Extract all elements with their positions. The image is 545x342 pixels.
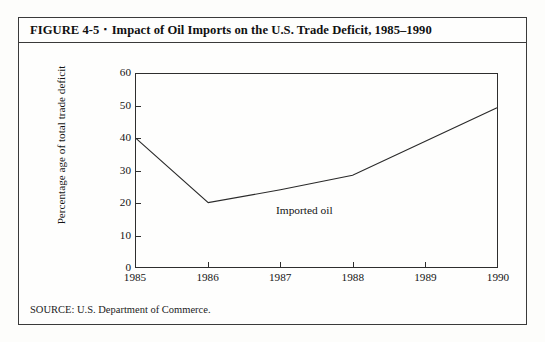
x-tick-mark [353, 262, 354, 268]
y-tick-label: 50 [105, 100, 131, 111]
x-tick-marks [135, 262, 498, 269]
figure-number-label: FIGURE 4-5 [30, 23, 99, 37]
y-tick-labels: 60 50 40 30 20 10 0 [103, 73, 131, 268]
x-tick-mark [280, 262, 281, 268]
figure-root: FIGURE 4-5▪Impact of Oil Imports on the … [0, 0, 545, 342]
y-tick-label: 40 [105, 132, 131, 143]
y-tick-label: 30 [105, 165, 131, 176]
source-note: SOURCE: U.S. Department of Commerce. [30, 304, 211, 315]
square-bullet-icon: ▪ [103, 25, 106, 34]
series-annotation-imported-oil: Imported oil [276, 204, 333, 216]
plot-frame [135, 73, 498, 268]
x-tick-labels: 1985 1986 1987 1988 1989 1990 [135, 271, 498, 291]
y-tick-label: 20 [105, 197, 131, 208]
x-tick-mark [208, 262, 209, 268]
figure-title-band: FIGURE 4-5▪Impact of Oil Imports on the … [19, 18, 526, 43]
y-axis-label: Percentage age of total trade deficit [55, 45, 67, 245]
x-tick-label: 1990 [474, 271, 522, 283]
x-tick-label: 1989 [401, 271, 449, 283]
figure-box: FIGURE 4-5▪Impact of Oil Imports on the … [18, 17, 527, 325]
y-tick-label: 10 [105, 230, 131, 241]
x-tick-mark [425, 262, 426, 268]
chart-area: Percentage age of total trade deficit 60… [19, 43, 526, 324]
y-tick-label: 60 [105, 67, 131, 78]
x-tick-label: 1987 [256, 271, 304, 283]
imported-oil-line [136, 108, 497, 203]
figure-title-text: Impact of Oil Imports on the U.S. Trade … [112, 23, 432, 37]
x-tick-label: 1988 [329, 271, 377, 283]
x-tick-label: 1986 [184, 271, 232, 283]
x-tick-label: 1985 [111, 271, 159, 283]
figure-title: FIGURE 4-5▪Impact of Oil Imports on the … [30, 23, 432, 38]
series-plot [136, 74, 497, 267]
